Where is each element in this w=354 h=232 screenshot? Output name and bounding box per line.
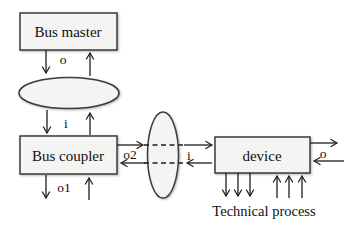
device-label: device [242,148,281,164]
master-output-label: o [60,52,67,67]
coupler-output2-label: o2 [123,147,137,162]
bus-architecture-diagram: Bus master o i Bus coupler o1 o2 i [0,0,354,232]
bus-coupler-label: Bus coupler [32,148,104,164]
upper-bus-ellipse [19,78,119,109]
coupler-output1-label: o1 [57,180,71,195]
device-output-label: o [320,146,327,161]
device-input-label: i [187,148,191,163]
bus-master-label: Bus master [34,24,101,40]
coupler-input-label: i [64,116,68,131]
field-bus-ellipse [148,112,179,198]
technical-process-caption: Technical process [212,203,316,219]
diagram-svg: Bus master o i Bus coupler o1 o2 i [0,0,354,232]
